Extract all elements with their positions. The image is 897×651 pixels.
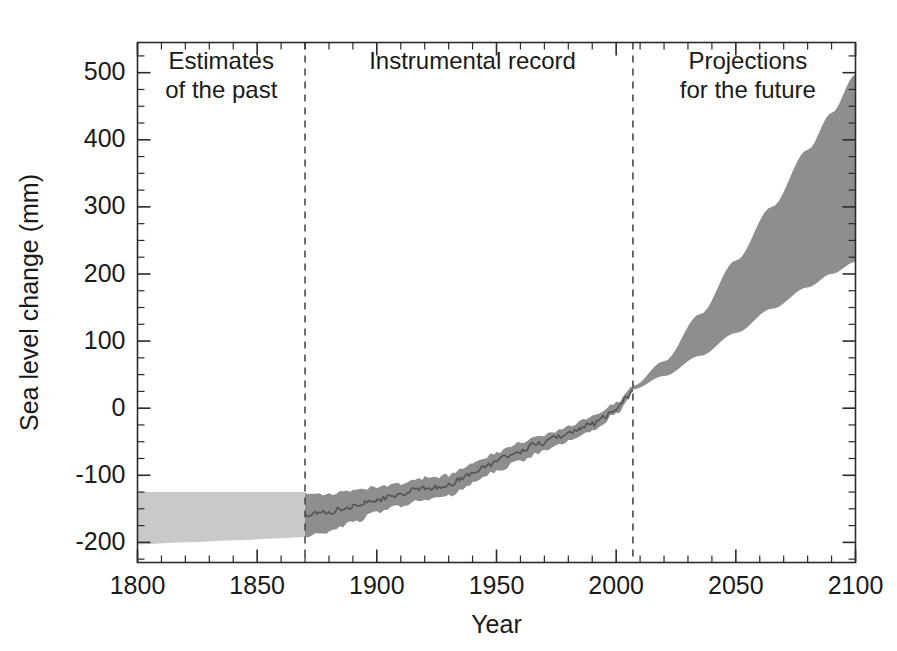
- y-tick-label: 0: [112, 393, 126, 421]
- series-band-0: [138, 492, 306, 544]
- x-tick-label: 1950: [469, 571, 525, 599]
- x-tick-label: 2000: [588, 571, 644, 599]
- x-tick-label: 2100: [828, 571, 884, 599]
- x-tick-label: 1900: [349, 571, 405, 599]
- x-tick-label: 2050: [708, 571, 764, 599]
- x-tick-label: 1850: [229, 571, 285, 599]
- y-tick-label: 100: [84, 326, 126, 354]
- chart-canvas: 1800185019001950200020502100-200-1000100…: [0, 0, 897, 651]
- y-tick-label: 200: [84, 259, 126, 287]
- x-tick-label: 1800: [110, 571, 166, 599]
- annotation-line: of the past: [165, 76, 277, 103]
- annotation-estimates-of-the-past: Estimatesof the past: [165, 47, 277, 103]
- annotation-instrumental-record: Instrumental record: [369, 47, 576, 74]
- y-tick-label: 300: [84, 191, 126, 219]
- region-annotations: Estimatesof the pastInstrumental recordP…: [165, 47, 816, 103]
- annotation-line: for the future: [680, 76, 816, 103]
- annotation-line: Estimates: [169, 47, 274, 74]
- series-band-3: [633, 75, 856, 390]
- annotation-projections-for-the-future: Projectionsfor the future: [680, 47, 816, 103]
- y-tick-label: 400: [84, 124, 126, 152]
- axis-titles: YearSea level change (mm): [15, 174, 522, 638]
- series-band-1: [305, 387, 633, 537]
- x-axis-title: Year: [471, 610, 522, 638]
- y-axis-title: Sea level change (mm): [15, 174, 43, 431]
- y-tick-label: -100: [75, 460, 125, 488]
- annotation-line: Projections: [688, 47, 807, 74]
- y-tick-label: -200: [75, 527, 125, 555]
- sea-level-change-figure: 1800185019001950200020502100-200-1000100…: [0, 0, 897, 651]
- plot-bands: [138, 75, 856, 545]
- y-tick-label: 500: [84, 57, 126, 85]
- annotation-line: Instrumental record: [369, 47, 576, 74]
